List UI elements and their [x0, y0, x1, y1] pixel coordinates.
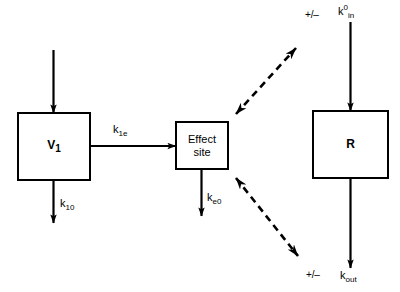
node-label-v1-subscript: 1 — [55, 143, 61, 154]
page-margin-caption — [0, 26, 9, 276]
node-label-v1: V1 — [47, 139, 61, 155]
edge-label-ke0: ke0 — [207, 192, 221, 206]
node-label-effect-site: Effectsite — [188, 133, 216, 158]
edge-label-k10-subscript: 10 — [66, 203, 75, 212]
node-response-r: R — [312, 110, 389, 179]
arrow-effect-modulates-kin — [236, 48, 296, 114]
edge-label-k1e: k1e — [113, 124, 127, 138]
node-label-r: R — [346, 138, 355, 151]
arrow-effect-modulates-kout — [236, 178, 298, 256]
node-effect-site: Effectsite — [175, 121, 229, 170]
edge-label-ke0-subscript: e0 — [213, 197, 222, 206]
edge-label-k10: k10 — [60, 198, 74, 212]
edge-label-k0in-subscript: in — [348, 11, 354, 20]
node-label-effect-site-line1: Effect — [188, 133, 216, 145]
edge-label-plus-minus-top: +/– — [305, 10, 319, 20]
edge-label-kout: kout — [340, 270, 357, 284]
edge-label-k0in: k0in — [338, 4, 354, 20]
edge-label-kout-subscript: out — [346, 275, 357, 284]
node-label-effect-site-line2: site — [193, 146, 210, 158]
node-central-compartment-v1: V1 — [17, 112, 91, 181]
edge-label-k1e-subscript: 1e — [119, 129, 128, 138]
diagram-canvas: V1 Effectsite R k1e k10 ke0 k0in kout +/… — [0, 0, 400, 292]
edge-label-plus-minus-bottom: +/– — [306, 270, 320, 280]
